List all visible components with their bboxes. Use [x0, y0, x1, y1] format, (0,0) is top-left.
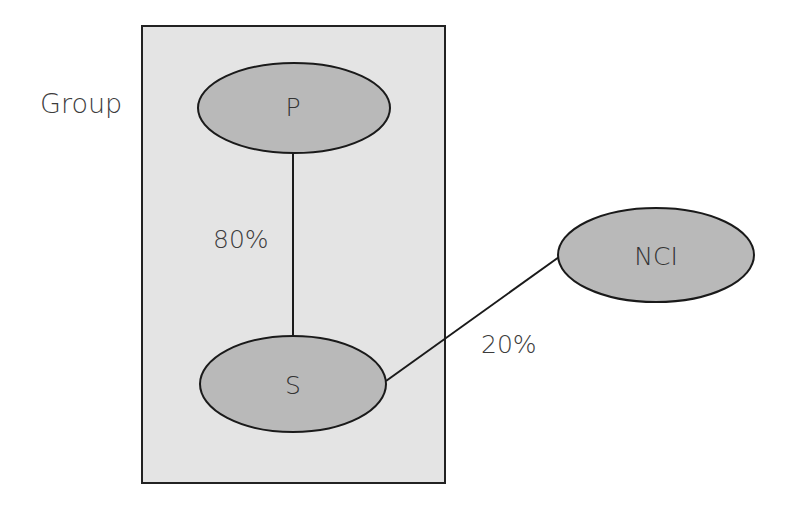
group-label: Group	[40, 90, 122, 117]
node-nci-label: NCI	[634, 244, 678, 269]
node-s-label: S	[285, 373, 301, 398]
edge-s-nci-label: 20%	[481, 332, 537, 357]
node-p-label: P	[285, 95, 300, 120]
edge-p-s-label: 80%	[213, 227, 269, 252]
